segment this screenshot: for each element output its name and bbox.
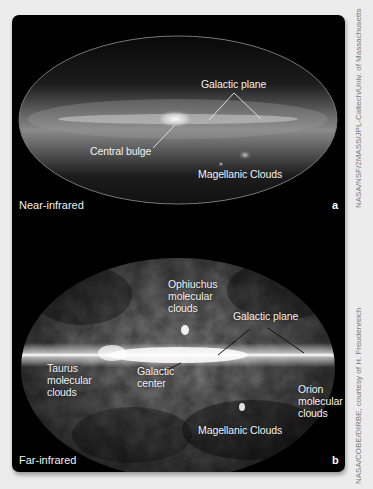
far-infrared-skymap [12, 235, 345, 472]
label-orion-line2: molecular [298, 395, 343, 407]
label-ophiuchus-line1: Ophiuchus [168, 278, 217, 290]
label-ophiuchus-line3: clouds [168, 302, 198, 314]
label-galactic-plane-b: Galactic plane [233, 310, 298, 322]
label-ophiuchus-line2: molecular [168, 290, 213, 302]
label-taurus-line2: molecular [47, 374, 92, 386]
label-galactic-center-line2: center [137, 377, 166, 389]
label-galactic-plane-a: Galactic plane [201, 78, 266, 90]
label-magellanic-clouds-b: Magellanic Clouds [198, 424, 282, 436]
panel-letter-b: b [332, 454, 339, 466]
band-label-far-infrared: Far-infrared [19, 454, 76, 466]
image-credit-a: NASA/NSF/2MASS/JPL-Caltech/Univ. of Mass… [354, 9, 363, 208]
image-credit-b: NASA/COBE/DIRBE, courtesy of H. Freudenr… [354, 307, 363, 484]
band-label-near-infrared: Near-infrared [19, 199, 84, 211]
label-magellanic-clouds-a: Magellanic Clouds [198, 168, 282, 180]
label-galactic-center-line1: Galactic [137, 365, 174, 377]
label-taurus-line1: Taurus [47, 362, 78, 374]
label-central-bulge: Central bulge [90, 145, 151, 157]
label-orion-line1: Orion [298, 383, 323, 395]
panel-letter-a: a [332, 199, 338, 211]
figure-panel: Galactic plane Central bulge Magellanic … [12, 15, 345, 472]
label-taurus-line3: clouds [47, 386, 77, 398]
label-orion-line3: clouds [298, 407, 328, 419]
